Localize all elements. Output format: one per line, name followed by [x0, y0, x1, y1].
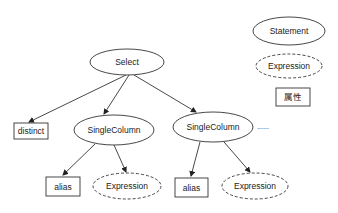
- alias-2-label: alias: [183, 183, 200, 193]
- node-singlecolumn-1: SingleColumn: [74, 115, 154, 145]
- node-alias-2: alias: [175, 178, 208, 197]
- node-alias-1: alias: [46, 177, 80, 196]
- node-singlecolumn-2: SingleColumn: [173, 112, 253, 142]
- edge-singlecolumn-1-alias: [63, 144, 95, 175]
- expression-2-label: Expression: [234, 181, 276, 191]
- legend-expression: Expression: [256, 54, 322, 78]
- node-expression-2: Expression: [222, 173, 288, 199]
- edge-singlecolumn-2-expression: [224, 142, 250, 172]
- edge-select-singlecolumn-2: [134, 75, 196, 112]
- singlecolumn-1-label: SingleColumn: [88, 125, 141, 135]
- edge-select-singlecolumn-1: [104, 75, 129, 114]
- distinct-label: distinct: [18, 126, 45, 136]
- legend-statement-label: Statement: [270, 26, 309, 36]
- edge-singlecolumn-2-alias: [191, 142, 200, 176]
- alias-1-label: alias: [54, 182, 71, 192]
- edge-singlecolumn-1-expression: [114, 145, 126, 172]
- ast-diagram: Select distinct SingleColumn SingleColum…: [0, 0, 338, 213]
- more-ellipsis: ......: [257, 123, 269, 130]
- expression-1-label: Expression: [106, 181, 148, 191]
- select-label: Select: [115, 57, 139, 67]
- node-expression-1: Expression: [93, 173, 161, 199]
- legend-statement: Statement: [253, 17, 325, 45]
- legend-expression-label: Expression: [268, 61, 310, 71]
- node-distinct: distinct: [14, 123, 48, 139]
- legend-attribute-label: 属性: [284, 92, 302, 102]
- node-select: Select: [90, 49, 164, 75]
- legend: Statement Expression 属性: [253, 17, 325, 106]
- legend-attribute: 属性: [276, 88, 310, 106]
- singlecolumn-2-label: SingleColumn: [187, 122, 240, 132]
